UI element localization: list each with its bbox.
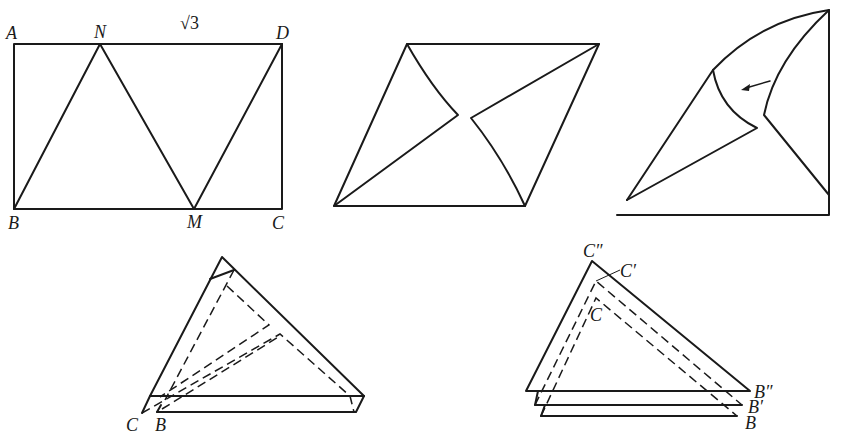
arrow-head-icon [741,84,750,91]
figure-triangle-strip [142,257,364,413]
label-b: B [8,214,19,232]
label-n: N [94,23,106,41]
inner-right-flap [764,10,829,195]
figure-parallelogram-fold [334,44,599,206]
figure-folding-step [617,10,829,215]
label-b-fig5: B [745,414,756,432]
edge-b0-left [541,405,545,416]
figure-rectangle-fold [14,44,282,209]
label-a: A [6,24,17,42]
parallelogram-outline [334,44,599,206]
diagram-canvas [0,0,842,440]
right-fold-curve [471,44,599,206]
strip-left-edge [157,405,161,412]
label-m: M [187,213,202,231]
dashed-left-edge [165,270,234,400]
label-b-fig4: B [155,416,166,434]
bottom-strip [157,396,364,412]
inner-left-flap [627,70,757,200]
zigzag-bnmd [14,44,282,209]
label-c-double-prime: C″ [583,242,603,260]
pointer-c1 [596,270,620,281]
label-c-prime: C′ [620,262,636,280]
label-c-fig5: C [590,306,602,324]
outer-triangle [150,257,364,396]
label-d: D [276,24,289,42]
label-sqrt3: √3 [180,14,199,32]
dashed-inner-fold-1 [160,286,269,397]
label-c: C [272,214,284,232]
figure-stacked-triangles [526,261,750,416]
label-c-fig4: C [126,416,138,434]
folded-outline [617,10,829,215]
triangle-c2-b2 [526,261,750,391]
